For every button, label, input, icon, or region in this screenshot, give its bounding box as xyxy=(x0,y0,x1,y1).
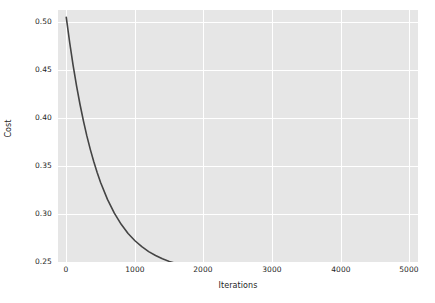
y-tick-label: 0.50 xyxy=(4,18,52,26)
x-tick-label: 5000 xyxy=(389,265,429,274)
cost-curve xyxy=(58,10,418,262)
x-tick-label: 1000 xyxy=(115,265,155,274)
plot-area xyxy=(58,10,418,262)
y-tick-label: 0.30 xyxy=(4,210,52,218)
x-tick-label: 3000 xyxy=(252,265,292,274)
x-axis-label: Iterations xyxy=(58,281,418,290)
chart-figure: 0.50 0.45 0.40 0.35 0.30 0.25 0 1000 200… xyxy=(0,0,435,303)
y-tick-label: 0.25 xyxy=(4,258,52,266)
x-tick-label: 4000 xyxy=(321,265,361,274)
y-tick-label: 0.45 xyxy=(4,66,52,74)
y-axis-label: Cost xyxy=(4,109,13,149)
x-tick-label: 0 xyxy=(46,265,86,274)
y-tick-label: 0.35 xyxy=(4,162,52,170)
y-axis-ticks: 0.50 0.45 0.40 0.35 0.30 0.25 xyxy=(0,0,52,303)
x-tick-label: 2000 xyxy=(183,265,223,274)
